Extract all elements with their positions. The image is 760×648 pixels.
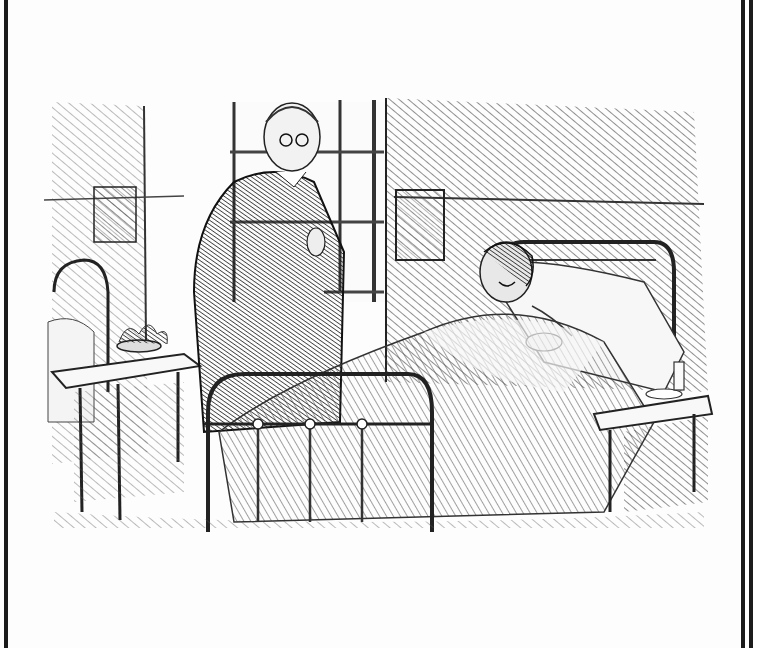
scanned-page: Pen-and-ink illustration: an elderly cle…: [0, 0, 760, 648]
drinking-glass: [674, 362, 684, 390]
page-border-right-inner: [749, 0, 753, 648]
page-border-left: [4, 0, 8, 648]
framed-notice-right: [396, 190, 444, 260]
hospital-ward-illustration: [44, 92, 716, 532]
page-border-right-outer: [741, 0, 745, 648]
framed-notice-left: [94, 187, 136, 242]
illustration-description: Pen-and-ink illustration: an elderly cle…: [0, 0, 1, 1]
clergyman-hand: [307, 228, 325, 256]
